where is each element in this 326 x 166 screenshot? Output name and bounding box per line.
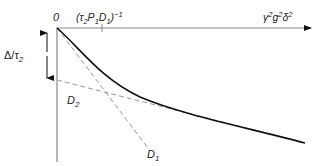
line-d1-label: D1 [147, 148, 159, 163]
line-d2-label: D2 [67, 94, 80, 109]
line-d1 [57, 28, 148, 148]
x-tick-label: (τ2P1D1)−1 [76, 10, 123, 26]
origin-label: 0 [53, 11, 60, 23]
response-curve [57, 28, 305, 143]
diagram-canvas: 0 (τ2P1D1)−1 γ2g2δ2 Δ/τ2 D2 D1 [0, 0, 326, 166]
x-axis-label: γ2g2δ2 [263, 10, 293, 23]
y-arrow-label: Δ/τ2 [4, 49, 24, 64]
